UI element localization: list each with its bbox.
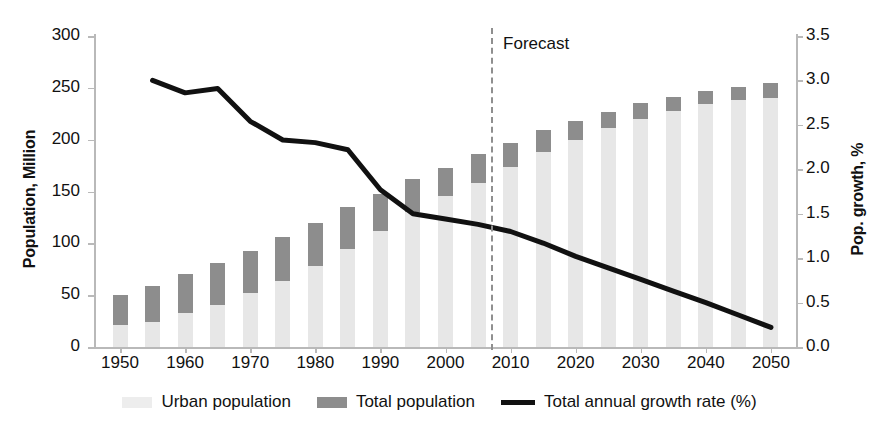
y-axis-right-tickmark xyxy=(796,303,803,305)
x-axis-tick-2020: 2020 xyxy=(546,353,606,373)
x-axis-tickmark xyxy=(120,347,122,353)
y-axis-right-tick-1.5: 1.5 xyxy=(806,203,856,223)
y-axis-left-tick-50: 50 xyxy=(34,284,80,304)
x-axis-tickmark xyxy=(250,347,252,353)
y-axis-left-tick-0: 0 xyxy=(34,336,80,356)
y-axis-right-tickmark xyxy=(796,169,803,171)
x-axis-tickmark xyxy=(771,347,773,353)
growth-rate-line xyxy=(94,36,797,347)
plot-area xyxy=(94,36,797,347)
x-axis-tick-2050: 2050 xyxy=(741,353,801,373)
y-axis-right-tickmark xyxy=(796,36,803,38)
y-axis-right-tickmark xyxy=(796,125,803,127)
x-axis-tickmark xyxy=(706,347,708,353)
legend-item-growth-rate: Total annual growth rate (%) xyxy=(501,392,757,412)
x-axis-tick-2010: 2010 xyxy=(481,353,541,373)
x-axis-tickmark xyxy=(380,347,382,353)
x-axis-tickmark xyxy=(185,347,187,353)
forecast-label: Forecast xyxy=(503,34,569,54)
legend-label-growth-rate: Total annual growth rate (%) xyxy=(544,392,757,412)
chart-legend: Urban population Total population Total … xyxy=(0,392,879,412)
y-axis-left-tickmark xyxy=(88,347,95,349)
x-axis-tickmark xyxy=(315,347,317,353)
y-axis-left-tick-150: 150 xyxy=(34,181,80,201)
legend-swatch-urban-icon xyxy=(122,397,152,408)
y-axis-left-tick-100: 100 xyxy=(34,232,80,252)
y-axis-left-tick-300: 300 xyxy=(34,25,80,45)
y-axis-right-tick-0.0: 0.0 xyxy=(806,336,856,356)
x-axis-tick-1990: 1990 xyxy=(350,353,410,373)
x-axis-tickmark xyxy=(446,347,448,353)
y-axis-right-tick-3.5: 3.5 xyxy=(806,25,856,45)
x-axis-tick-2000: 2000 xyxy=(416,353,476,373)
x-axis-tick-1980: 1980 xyxy=(285,353,345,373)
x-axis-tickmark xyxy=(511,347,513,353)
legend-label-urban-population: Urban population xyxy=(161,392,290,412)
x-axis-tick-1970: 1970 xyxy=(220,353,280,373)
x-axis-tick-1960: 1960 xyxy=(155,353,215,373)
y-axis-left-tick-200: 200 xyxy=(34,129,80,149)
x-axis-tick-2030: 2030 xyxy=(611,353,671,373)
y-axis-right-tick-2.5: 2.5 xyxy=(806,114,856,134)
legend-line-growth-icon xyxy=(501,400,535,405)
y-axis-right-tick-3.0: 3.0 xyxy=(806,69,856,89)
y-axis-right-tick-1.0: 1.0 xyxy=(806,247,856,267)
y-axis-right-tickmark xyxy=(796,347,803,349)
legend-item-urban-population: Urban population xyxy=(122,392,290,412)
x-axis-tick-1950: 1950 xyxy=(90,353,150,373)
x-axis-tickmark xyxy=(641,347,643,353)
y-axis-right-tickmark xyxy=(796,214,803,216)
y-axis-left-tick-250: 250 xyxy=(34,77,80,97)
legend-item-total-population: Total population xyxy=(317,392,475,412)
x-axis-tick-2040: 2040 xyxy=(676,353,736,373)
forecast-divider-line xyxy=(491,28,493,350)
x-axis-tickmark xyxy=(576,347,578,353)
legend-swatch-total-icon xyxy=(317,397,347,408)
legend-label-total-population: Total population xyxy=(356,392,475,412)
population-growth-chart: Population, Million Pop. growth, % 05010… xyxy=(0,0,879,439)
y-axis-right-tick-0.5: 0.5 xyxy=(806,292,856,312)
y-axis-right-tick-2.0: 2.0 xyxy=(806,158,856,178)
y-axis-right-tickmark xyxy=(796,258,803,260)
y-axis-right-tickmark xyxy=(796,80,803,82)
